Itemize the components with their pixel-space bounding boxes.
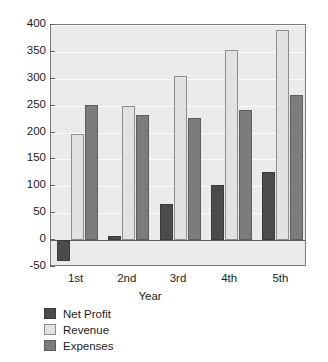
gridline — [51, 25, 305, 26]
y-axis-tick-mark — [50, 51, 55, 52]
y-axis-tick-label: 300 — [6, 72, 46, 84]
legend-swatch-icon — [44, 340, 56, 351]
y-axis-tick-mark — [50, 266, 55, 267]
y-axis-tick-mark — [50, 158, 55, 159]
y-axis-tick-label: -50 — [6, 260, 46, 272]
bar-revenue-4th — [225, 50, 238, 240]
bar-expenses-2nd — [136, 115, 149, 240]
bar-net-profit-2nd — [108, 236, 121, 240]
bar-revenue-3rd — [174, 76, 187, 241]
legend-swatch-icon — [44, 324, 56, 335]
x-axis-tick-label: 4th — [204, 272, 255, 284]
bar-chart-figure: -50050100150200250300350400 1st2nd3rd4th… — [0, 0, 328, 362]
bar-net-profit-4th — [211, 185, 224, 240]
bar-revenue-1st — [71, 134, 84, 240]
y-axis-tick-label: 400 — [6, 18, 46, 30]
y-axis-tick-label: 200 — [6, 126, 46, 138]
y-axis-tick-label: 0 — [6, 233, 46, 245]
x-axis-tick-label: 5th — [255, 272, 306, 284]
legend-label: Net Profit — [63, 308, 111, 320]
y-axis-tick-mark — [50, 24, 55, 25]
y-axis-tick-mark — [50, 132, 55, 133]
bar-expenses-4th — [239, 110, 252, 240]
y-axis-tick-mark — [50, 105, 55, 106]
plot-area — [50, 24, 306, 266]
bar-expenses-3rd — [188, 118, 201, 240]
bar-revenue-2nd — [122, 106, 135, 240]
legend-label: Revenue — [63, 324, 109, 336]
y-axis-tick-label: 50 — [6, 206, 46, 218]
gridline — [51, 52, 305, 53]
bar-revenue-5th — [276, 30, 289, 240]
y-axis-tick-mark — [50, 78, 55, 79]
y-axis-tick-label: 150 — [6, 152, 46, 164]
x-axis-title: Year — [0, 290, 328, 302]
bar-net-profit-1st — [57, 240, 70, 260]
bar-net-profit-3rd — [160, 204, 173, 241]
zero-baseline — [51, 240, 305, 241]
legend-label: Expenses — [63, 340, 114, 352]
y-axis-tick-label: 100 — [6, 179, 46, 191]
y-axis-tick-mark — [50, 185, 55, 186]
y-axis-tick-mark — [50, 212, 55, 213]
x-axis-tick-label: 2nd — [101, 272, 152, 284]
x-axis-tick-label: 3rd — [152, 272, 203, 284]
legend-swatch-icon — [44, 308, 56, 319]
y-axis-tick-label: 350 — [6, 45, 46, 57]
y-axis-tick-mark — [50, 239, 55, 240]
bar-net-profit-5th — [262, 172, 275, 240]
legend-item: Net Profit — [44, 306, 244, 321]
chart-legend: Net ProfitRevenueExpenses — [44, 306, 244, 354]
y-axis-tick-label: 250 — [6, 99, 46, 111]
legend-item: Expenses — [44, 338, 244, 353]
bar-expenses-1st — [85, 105, 98, 240]
legend-item: Revenue — [44, 322, 244, 337]
x-axis-tick-label: 1st — [50, 272, 101, 284]
x-axis-title-text: Year — [138, 290, 161, 302]
bar-expenses-5th — [290, 95, 303, 240]
